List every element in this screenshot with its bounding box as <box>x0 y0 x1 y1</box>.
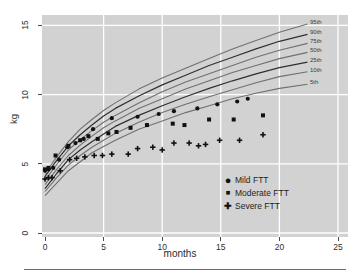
y-axis-tick <box>38 94 42 95</box>
circle-data-point <box>235 99 239 103</box>
x-axis-tick <box>338 237 339 241</box>
x-axis-title: months <box>158 248 202 259</box>
circle-data-point <box>215 102 219 106</box>
legend-label-severe-ftt: Severe FTT <box>235 201 280 211</box>
square-data-point <box>66 144 70 148</box>
plus-data-point <box>161 147 163 152</box>
percentile-label-50th: 50th <box>310 47 322 53</box>
plus-marker-icon: ✚ <box>223 201 233 211</box>
x-tick-label: 0 <box>35 242 55 252</box>
x-axis-tick <box>103 237 104 241</box>
legend-item-moderate-ftt: ■ Moderate FTT <box>223 186 289 199</box>
percentile-label-25th: 25th <box>310 57 322 63</box>
square-data-point <box>78 138 82 142</box>
figure-bottom-rule <box>24 269 346 270</box>
plus-data-point <box>205 142 207 147</box>
percentile-label-90th: 90th <box>310 29 322 35</box>
plus-data-point <box>69 157 71 162</box>
square-data-point <box>171 122 175 126</box>
circle-data-point <box>82 137 86 141</box>
y-axis-tick <box>38 163 42 164</box>
chart-canvas <box>42 15 348 237</box>
y-tick-label: 5 <box>20 152 30 176</box>
circle-marker-icon: ● <box>223 175 233 185</box>
y-axis-tick <box>38 233 42 234</box>
square-data-point <box>43 167 47 171</box>
x-tick-label: 20 <box>269 242 289 252</box>
percentile-label-75th: 75th <box>310 38 322 44</box>
square-data-point <box>54 153 58 157</box>
y-tick-label: 15 <box>20 13 30 37</box>
plus-data-point <box>219 138 221 143</box>
plus-data-point <box>127 151 129 156</box>
square-data-point <box>86 134 90 138</box>
square-data-point <box>232 118 236 122</box>
x-tick-label: 25 <box>328 242 348 252</box>
x-tick-label: 5 <box>94 242 114 252</box>
plus-data-point <box>262 132 264 137</box>
circle-data-point <box>110 116 114 120</box>
x-tick-label: 15 <box>211 242 231 252</box>
percentile-label-95th: 95th <box>310 19 322 25</box>
square-marker-icon: ■ <box>223 188 233 198</box>
legend: ● Mild FTT ■ Moderate FTT ✚ Severe FTT <box>223 173 289 212</box>
legend-label-moderate-ftt: Moderate FTT <box>235 188 289 198</box>
plus-data-point <box>111 151 113 156</box>
x-axis-tick <box>279 237 280 241</box>
plus-data-point <box>93 153 95 158</box>
plus-data-point <box>84 154 86 159</box>
plot-area: 95th90th75th50th25th10th5th ● Mild FTT ■… <box>42 15 348 237</box>
circle-data-point <box>246 97 250 101</box>
square-data-point <box>96 137 100 141</box>
plus-data-point <box>137 146 139 151</box>
square-data-point <box>207 118 211 122</box>
y-axis-title: kg <box>8 104 20 134</box>
plus-data-point <box>59 168 61 173</box>
circle-data-point <box>157 112 161 116</box>
square-data-point <box>106 131 110 135</box>
percentile-curve-95th <box>45 24 308 174</box>
square-data-point <box>129 126 133 130</box>
y-axis-tick <box>38 25 42 26</box>
plus-data-point <box>188 140 190 145</box>
plus-data-point <box>152 144 154 149</box>
circle-data-point <box>91 127 95 131</box>
circle-data-point <box>73 141 77 145</box>
circle-data-point <box>172 109 176 113</box>
circle-data-point <box>135 115 139 119</box>
legend-item-severe-ftt: ✚ Severe FTT <box>223 199 289 212</box>
square-data-point <box>47 166 51 170</box>
percentile-label-10th: 10th <box>310 67 322 73</box>
plus-data-point <box>48 175 50 180</box>
square-data-point <box>182 123 186 127</box>
plus-data-point <box>198 143 200 148</box>
growth-chart-figure: 95th90th75th50th25th10th5th ● Mild FTT ■… <box>0 0 361 277</box>
x-axis-tick <box>220 237 221 241</box>
percentile-curve-75th <box>45 43 308 180</box>
x-axis-tick <box>45 237 46 241</box>
plus-data-point <box>102 153 104 158</box>
plus-data-point <box>173 140 175 145</box>
circle-data-point <box>51 166 55 170</box>
plus-data-point <box>44 176 46 181</box>
y-tick-label: 10 <box>20 83 30 107</box>
y-tick-label: 0 <box>20 221 30 245</box>
square-data-point <box>261 113 265 117</box>
square-data-point <box>145 123 149 127</box>
plus-data-point <box>51 175 53 180</box>
square-data-point <box>114 130 118 134</box>
x-axis-tick <box>162 237 163 241</box>
plus-data-point <box>76 156 78 161</box>
percentile-label-5th: 5th <box>310 79 318 85</box>
legend-label-mild-ftt: Mild FTT <box>235 175 269 185</box>
legend-item-mild-ftt: ● Mild FTT <box>223 173 289 186</box>
plus-data-point <box>239 138 241 143</box>
circle-data-point <box>57 158 61 162</box>
circle-data-point <box>195 106 199 110</box>
